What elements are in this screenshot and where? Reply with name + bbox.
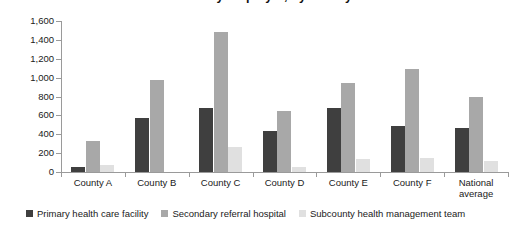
- x-tick-label: County A: [61, 177, 125, 188]
- x-tick-mark: [316, 172, 317, 177]
- legend-label: Secondary referral hospital: [172, 208, 286, 219]
- legend-swatch-icon: [161, 210, 168, 217]
- x-tick-mark: [125, 172, 126, 177]
- bar: [150, 80, 164, 172]
- bar: [405, 69, 419, 172]
- bar: [484, 161, 498, 172]
- bar: [356, 159, 370, 172]
- bar: [341, 83, 355, 172]
- y-tick-label: 600: [2, 110, 54, 119]
- x-tick-label-line: County E: [316, 177, 380, 188]
- x-tick-label-line: County B: [125, 177, 189, 188]
- x-tick-label-line: County F: [380, 177, 444, 188]
- bar-group: [316, 21, 380, 172]
- bar-group: [380, 21, 444, 172]
- chart-title-clipped: Distribution of health workers by employ…: [0, 0, 515, 6]
- y-tick-mark: [56, 115, 61, 116]
- bar: [71, 167, 85, 172]
- page-title: Distribution of health workers by employ…: [22, 0, 352, 3]
- legend-item: Subcounty health management team: [299, 208, 465, 219]
- bar: [100, 165, 114, 172]
- bar: [199, 108, 213, 172]
- bar: [391, 126, 405, 172]
- legend-swatch-icon: [299, 210, 306, 217]
- x-tick-label-line: County C: [189, 177, 253, 188]
- y-tick-label: 1,600: [2, 16, 54, 25]
- y-tick-mark: [56, 78, 61, 79]
- x-tick-label: County B: [125, 177, 189, 188]
- y-tick-label: 0: [2, 167, 54, 176]
- x-tick-label-line: County D: [253, 177, 317, 188]
- x-tick-mark: [61, 172, 62, 177]
- y-tick-label: 200: [2, 148, 54, 157]
- x-tick-mark: [508, 172, 509, 177]
- bar: [420, 158, 434, 172]
- y-tick-mark: [56, 134, 61, 135]
- y-tick-label: 1,000: [2, 73, 54, 82]
- legend-item: Primary health care facility: [26, 208, 148, 219]
- bar: [469, 97, 483, 173]
- x-tick-label-line: average: [444, 188, 508, 199]
- bar: [327, 108, 341, 172]
- x-tick-label: County E: [316, 177, 380, 188]
- bar-group: [189, 21, 253, 172]
- y-tick-label: 1,200: [2, 54, 54, 63]
- chart-figure: Distribution of health workers by employ…: [0, 0, 515, 234]
- y-tick-label: 800: [2, 92, 54, 101]
- bar: [263, 131, 277, 172]
- x-tick-label: County C: [189, 177, 253, 188]
- y-tick-mark: [56, 21, 61, 22]
- bar: [292, 167, 306, 172]
- y-tick-mark: [56, 40, 61, 41]
- legend-label: Primary health care facility: [37, 208, 148, 219]
- x-axis-line: [61, 172, 508, 173]
- y-tick-label: 400: [2, 129, 54, 138]
- plot-area: [61, 21, 508, 172]
- bar: [228, 147, 242, 172]
- chart-legend: Primary health care facilitySecondary re…: [26, 208, 478, 219]
- y-tick-mark: [56, 59, 61, 60]
- x-tick-label-line: National: [444, 177, 508, 188]
- x-tick-mark: [189, 172, 190, 177]
- bar: [135, 118, 149, 172]
- bar-group: [253, 21, 317, 172]
- legend-swatch-icon: [26, 210, 33, 217]
- x-tick-label: County D: [253, 177, 317, 188]
- x-tick-label: County F: [380, 177, 444, 188]
- x-tick-mark: [444, 172, 445, 177]
- legend-item: Secondary referral hospital: [161, 208, 286, 219]
- y-tick-label: 1,400: [2, 35, 54, 44]
- legend-label: Subcounty health management team: [310, 208, 465, 219]
- x-tick-label-line: County A: [61, 177, 125, 188]
- bar: [214, 32, 228, 172]
- bar-group: [61, 21, 125, 172]
- y-tick-mark: [56, 97, 61, 98]
- y-tick-mark: [56, 172, 61, 173]
- x-tick-mark: [380, 172, 381, 177]
- bar: [277, 111, 291, 172]
- x-tick-label: Nationalaverage: [444, 177, 508, 199]
- y-tick-mark: [56, 153, 61, 154]
- x-tick-mark: [253, 172, 254, 177]
- bar: [455, 128, 469, 172]
- y-axis-ticks: 02004006008001,0001,2001,4001,600: [0, 0, 54, 234]
- bar: [86, 141, 100, 172]
- bar-group: [125, 21, 189, 172]
- bar-group: [444, 21, 508, 172]
